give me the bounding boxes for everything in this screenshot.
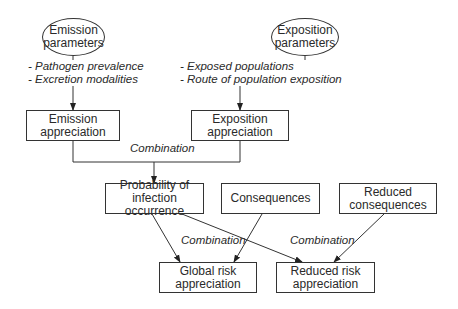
- node-label: Exposition: [207, 113, 272, 126]
- node-label: Consequences: [230, 192, 310, 205]
- node-label: Reduced: [349, 186, 426, 199]
- emission-appreciation-node: Emission appreciation: [26, 110, 120, 141]
- exposition-factor: - Route of population exposition: [180, 73, 342, 86]
- reduced-consequences-node: Reduced consequences: [339, 183, 437, 214]
- node-label: appreciation: [207, 126, 272, 139]
- emission-factors-list: - Pathogen prevalence - Excretion modali…: [28, 60, 144, 85]
- reduced-risk-appreciation-node: Reduced risk appreciation: [276, 262, 375, 293]
- node-label: occurrence: [106, 205, 203, 218]
- emission-parameters-node: Emission parameters: [42, 18, 105, 56]
- exposition-factors-list: - Exposed populations - Route of populat…: [180, 60, 342, 85]
- left-combination-label: Combination: [181, 234, 246, 247]
- node-label: appreciation: [40, 126, 105, 139]
- probability-of-infection-node: Probability of infection occurrence: [105, 183, 204, 214]
- global-risk-appreciation-node: Global risk appreciation: [159, 262, 257, 293]
- node-label: consequences: [349, 199, 426, 212]
- emission-factor: - Pathogen prevalence: [28, 60, 144, 73]
- node-label: Reduced risk: [290, 265, 360, 278]
- exposition-factor: - Exposed populations: [180, 60, 342, 73]
- consequences-node: Consequences: [221, 183, 320, 214]
- right-combination-label: Combination: [290, 234, 355, 247]
- node-label: parameters: [275, 37, 336, 50]
- node-label: parameters: [43, 37, 104, 50]
- exposition-parameters-node: Exposition parameters: [271, 18, 339, 56]
- node-label: appreciation: [290, 278, 360, 291]
- exposition-appreciation-node: Exposition appreciation: [191, 110, 289, 141]
- node-label: Probability of infection: [106, 179, 203, 205]
- emission-factor: - Excretion modalities: [28, 73, 144, 86]
- node-label: appreciation: [175, 278, 240, 291]
- top-combination-label: Combination: [130, 142, 195, 155]
- node-label: Emission: [40, 113, 105, 126]
- node-label: Global risk: [175, 265, 240, 278]
